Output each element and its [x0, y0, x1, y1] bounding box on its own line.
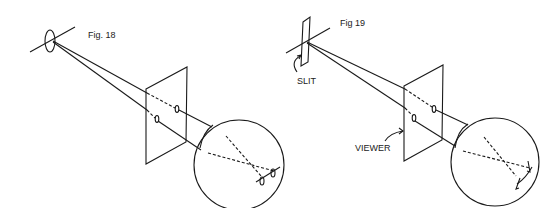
ray-upper-front: [53, 41, 147, 93]
eye-sphere: [194, 120, 284, 208]
ray-lower-rear: [415, 121, 455, 146]
ray-lower-front: [307, 43, 405, 108]
internal-ray-2: [463, 151, 530, 168]
figure-19: Fig 19 SLIT VIEWER: [286, 17, 539, 206]
viewer-label: VIEWER: [355, 143, 391, 153]
ray-upper-dashed: [147, 93, 175, 108]
internal-ray-1: [226, 136, 262, 177]
ray-lower-dashed: [147, 110, 155, 118]
figure-18: Fig. 18: [30, 27, 284, 208]
figure-18-label: Fig. 18: [88, 30, 116, 40]
ray-upper-front: [307, 42, 405, 89]
figure-19-label: Fig 19: [340, 18, 365, 28]
eye-lens-edge: [455, 124, 468, 148]
diagram-canvas: Fig. 18 Fig 19 SLIT: [0, 0, 560, 208]
retinal-slit-image-2: [516, 178, 520, 189]
image-point-upper: [175, 106, 179, 113]
internal-ray-2: [208, 153, 274, 171]
image-point-upper: [432, 106, 436, 113]
ray-lower-front: [53, 42, 147, 110]
retinal-slit-image-1: [527, 161, 530, 172]
eye-sphere: [451, 118, 539, 206]
ray-lower-dashed: [405, 108, 413, 116]
ray-upper-rear: [179, 110, 212, 127]
slit-label: SLIT: [297, 76, 317, 86]
image-point-lower: [412, 115, 416, 122]
ray-upper-rear: [436, 110, 468, 125]
ray-upper-dashed: [405, 89, 432, 107]
internal-ray-1: [484, 137, 516, 176]
optical-axis-line: [286, 28, 330, 53]
eye-lens-edge: [200, 125, 213, 148]
